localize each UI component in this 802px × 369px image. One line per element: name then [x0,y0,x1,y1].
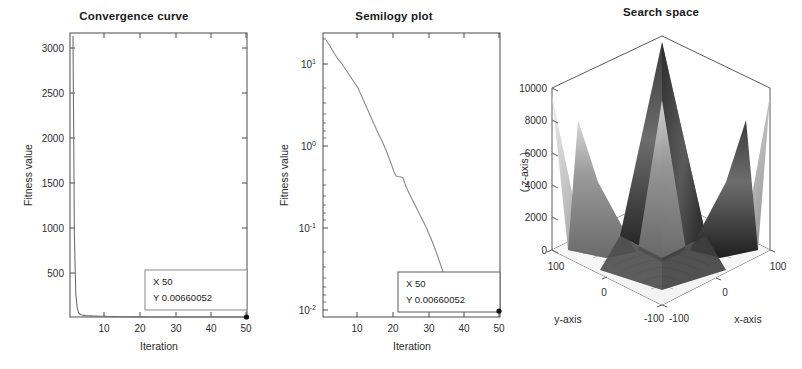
convergence-ylabel: Fitness value [22,144,34,206]
semilogy-datatip-x: X 50 [406,278,426,289]
semilogy-xtick-50: 50 [493,323,505,334]
convergence-xtick-50: 50 [240,323,252,334]
semilogy-datatip-y: Y 0.00660052 [406,294,465,305]
convergence-datatip-x: X 50 [153,276,173,287]
semilogy-datatip-marker[interactable] [496,308,501,313]
semilogy-ytick-1e1: 101 [301,58,316,70]
semilogy-xtick-10: 10 [351,323,363,334]
convergence-ytick-1000: 1000 [42,223,65,234]
matlab-figure-window: Convergence curve 500 [0,0,802,369]
convergence-ytick-1500: 1500 [42,178,65,189]
searchspace-ztick-2000: 2000 [525,212,548,223]
searchspace-xlabel: x-axis [734,313,761,325]
searchspace-ylabel: y-axis [554,313,581,325]
convergence-datatip-y: Y 0.00660052 [153,292,212,303]
convergence-xtick-40: 40 [205,323,217,334]
convergence-datatip[interactable]: X 50 Y 0.00660052 [145,270,247,310]
searchspace-ztick-10000: 10000 [519,83,547,94]
semilogy-xtick-40: 40 [458,323,470,334]
convergence-xtick-20: 20 [134,323,146,334]
convergence-ytick-2500: 2500 [42,88,65,99]
plot-panel-convergence: Convergence curve 500 [0,0,268,369]
semilogy-ytick-1e0: 100 [301,140,316,152]
convergence-xtick-30: 30 [170,323,182,334]
convergence-xlabel: Iteration [140,340,178,352]
semilogy-ytick-1em2: 10-2 [299,304,316,316]
convergence-axes: 500 1000 1500 2000 2500 3000 10 20 30 40… [0,0,268,369]
semilogy-xtick-20: 20 [387,323,399,334]
semilogy-axes: 101 100 10-1 10-2 10 20 30 40 50 Iterati… [268,0,520,369]
semilogy-datatip[interactable]: X 50 Y 0.00660052 [398,272,500,312]
convergence-ytick-500: 500 [47,268,64,279]
searchspace-ytick-100: 100 [548,261,565,272]
convergence-ytick-2000: 2000 [42,133,65,144]
searchspace-ztick-8000: 8000 [525,115,548,126]
searchspace-surface-wedge-right-dark [690,120,758,258]
semilogy-ylabel: Fitness value [278,144,290,206]
searchspace-xtick-100: 100 [770,261,787,272]
semilogy-xtick-30: 30 [423,323,435,334]
searchspace-xtick-0: 0 [722,287,728,298]
convergence-xtick-10: 10 [98,323,110,334]
convergence-datatip-marker[interactable] [244,314,249,319]
searchspace-xtick-neg100: -100 [669,313,689,324]
convergence-ytick-3000: 3000 [42,43,65,54]
searchspace-ytick-0: 0 [601,287,607,298]
semilogy-xlabel: Iteration [393,340,431,352]
semilogy-ytick-1em1: 10-1 [299,222,316,234]
searchspace-ztick-0: 0 [541,245,547,256]
plot-panel-semilogy: Semilogy plot [268,0,520,369]
searchspace-axes: 0 2000 4000 6000 8000 10000 100 0 -100 -… [520,0,802,369]
plot-panel-searchspace: Search space [520,0,802,369]
searchspace-zlabel: ( z-axis ) [518,152,530,192]
searchspace-ytick-neg100: -100 [644,313,664,324]
